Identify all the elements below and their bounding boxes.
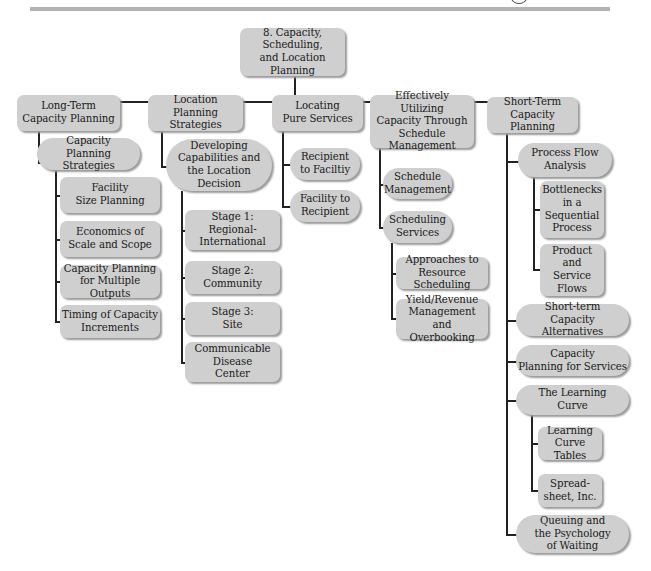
branch-location-planning-strategies: Location Planning Strategies	[148, 95, 243, 131]
node-short-term-capacity-alternatives: Short-term Capacity Alternatives	[516, 304, 629, 336]
node-facility-to-recipient: Facility to Recipient	[290, 190, 360, 222]
connector	[391, 243, 393, 319]
node-learning-curve-tables: Learning Curve Tables	[538, 427, 602, 460]
node-spreadsheet-inc: Spread- sheet, Inc.	[538, 474, 602, 507]
node-capacity-planning-strategies: Capacity Planning Strategies	[37, 138, 140, 170]
node-recipient-to-facility: Recipient to Faciltiy	[290, 148, 360, 180]
header-rule	[30, 7, 610, 11]
node-capacity-planning-multiple-outputs: Capacity Planning for Multiple Outputs	[60, 265, 160, 298]
node-facility-size-planning: Facility Size Planning	[60, 177, 160, 213]
node-yield-revenue-management: Yield/Revenue Management and Overbooking	[396, 299, 488, 339]
connector	[282, 131, 284, 207]
cropped-title-glyph	[511, 0, 527, 4]
connector	[506, 133, 508, 535]
node-approaches-to-resource-scheduling: Approaches to Resource Scheduling	[396, 257, 488, 289]
branch-effectively-utilizing-capacity: Effectively Utilizing Capacity Through S…	[370, 95, 474, 148]
node-bottlenecks-sequential-process: Bottlenecks in a Sequential Process	[540, 181, 604, 238]
node-stage-3-site: Stage 3: Site	[185, 302, 280, 335]
node-queuing-psychology-of-waiting: Queuing and the Psychology of Waiting	[516, 515, 629, 553]
connector	[55, 170, 57, 322]
node-process-flow-analysis: Process Flow Analysis	[518, 143, 612, 177]
root-node: 8. Capacity, Scheduling, and Location Pl…	[240, 28, 345, 76]
branch-long-term-capacity-planning: Long-Term Capacity Planning	[17, 95, 120, 131]
node-product-and-service-flows: Product and Service Flows	[540, 244, 604, 296]
node-stage-2-community: Stage 2: Community	[185, 261, 280, 294]
connector	[161, 131, 163, 167]
node-capacity-planning-for-services: Capacity Planning for Services	[516, 345, 629, 376]
node-schedule-management: Schedule Management	[383, 168, 452, 199]
connector	[531, 415, 533, 491]
node-scheduling-services: Scheduling Services	[383, 211, 452, 243]
branch-short-term-capacity-planning: Short-Term Capacity Planning	[487, 97, 578, 133]
branch-locating-pure-services: Locating Pure Services	[272, 95, 363, 131]
node-economics-of-scale-and-scope: Economics of Scale and Scope	[60, 221, 160, 257]
node-stage-1-regional-international: Stage 1: Regional- International	[185, 210, 280, 250]
connector	[533, 177, 535, 270]
connector	[379, 148, 381, 228]
node-developing-capabilities: Developing Capabilities and the Location…	[166, 139, 272, 191]
node-timing-of-capacity-increments: Timing of Capacity Increments	[60, 305, 160, 338]
node-the-learning-curve: The Learning Curve	[516, 385, 629, 415]
node-communicable-disease-center: Communicable Disease Center	[185, 342, 280, 382]
